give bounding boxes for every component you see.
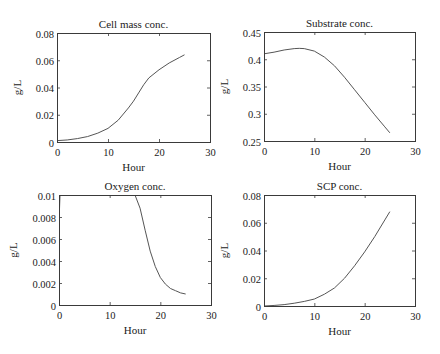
x-tick-label: 30 — [410, 311, 421, 322]
y-tick-label: 0.008 — [32, 213, 56, 224]
x-tick-label: 0 — [55, 147, 60, 158]
x-tick-label: 20 — [156, 310, 167, 321]
axes-frame — [265, 33, 416, 142]
y-axis-label: g/L — [218, 79, 230, 95]
plot-title: Oxygen conc. — [104, 180, 165, 192]
data-line — [264, 212, 390, 306]
y-tick-label: 0.3 — [248, 109, 261, 120]
subplot-cell-mass: Cell mass conc. Hour g/L 010203000.020.0… — [11, 18, 216, 173]
y-axis-label: g/L — [11, 80, 23, 96]
y-tick-label: 0.01 — [38, 191, 56, 202]
y-tick-label: 0 — [51, 301, 56, 312]
data-line — [57, 55, 185, 141]
y-axis-label: g/L — [7, 242, 19, 258]
x-tick-label: 10 — [103, 147, 114, 158]
x-tick-label: 20 — [360, 311, 371, 322]
x-tick-label: 0 — [57, 310, 62, 321]
x-tick-label: 30 — [410, 146, 421, 157]
y-tick-label: 0.35 — [243, 82, 261, 93]
x-axis-label: Hour — [122, 161, 145, 173]
x-tick-label: 20 — [360, 146, 371, 157]
data-line — [59, 195, 186, 294]
y-tick-label: 0 — [49, 138, 54, 149]
y-tick-label: 0.45 — [243, 28, 261, 39]
x-tick-label: 20 — [154, 147, 165, 158]
x-tick-label: 10 — [310, 146, 321, 157]
x-tick-label: 0 — [262, 311, 267, 322]
x-tick-label: 30 — [205, 147, 216, 158]
x-tick-label: 0 — [262, 146, 267, 157]
y-tick-label: 0.04 — [36, 83, 55, 94]
y-tick-label: 0.08 — [36, 29, 54, 40]
y-tick-label: 0.06 — [243, 218, 261, 229]
y-tick-label: 0.004 — [32, 257, 56, 268]
x-tick-label: 30 — [206, 310, 217, 321]
y-tick-label: 0.08 — [243, 191, 261, 202]
x-axis-label: Hour — [124, 324, 147, 336]
subplot-substrate: Substrate conc. Hour g/L 01020300.250.30… — [218, 17, 421, 172]
plot-title: Substrate conc. — [306, 17, 373, 29]
y-tick-label: 0 — [256, 302, 261, 313]
subplot-oxygen: Oxygen conc. Hour g/L 010203000.0020.004… — [7, 180, 217, 336]
figure: Cell mass conc. Hour g/L 010203000.020.0… — [0, 0, 440, 354]
y-tick-label: 0.02 — [36, 110, 54, 121]
y-tick-label: 0.04 — [243, 246, 262, 257]
x-tick-label: 10 — [105, 310, 116, 321]
x-tick-label: 10 — [310, 311, 321, 322]
plot-title: SCP conc. — [317, 180, 363, 192]
plot-title: Cell mass conc. — [99, 18, 169, 30]
y-axis-label: g/L — [218, 243, 230, 259]
y-tick-label: 0.02 — [243, 274, 261, 285]
x-axis-label: Hour — [328, 160, 351, 172]
subplot-scp: SCP conc. Hour g/L 010203000.020.040.060… — [218, 180, 421, 337]
axes-frame — [58, 34, 211, 143]
axes-frame — [60, 196, 212, 306]
data-line — [264, 48, 390, 132]
y-tick-label: 0.002 — [32, 279, 56, 290]
axes-frame — [265, 196, 416, 307]
y-tick-label: 0.25 — [243, 137, 261, 148]
y-tick-label: 0.4 — [248, 55, 262, 66]
x-axis-label: Hour — [328, 325, 351, 337]
y-tick-label: 0.006 — [32, 235, 56, 246]
y-tick-label: 0.06 — [36, 56, 54, 67]
